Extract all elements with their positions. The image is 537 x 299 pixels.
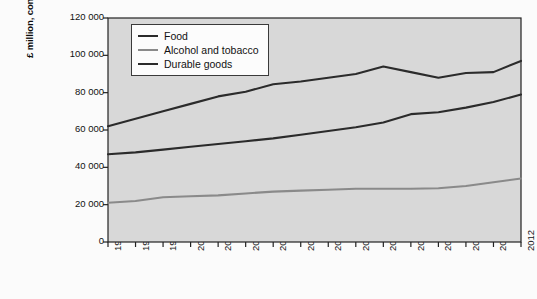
legend-swatch-icon: [138, 63, 158, 65]
legend-label: Durable goods: [164, 57, 232, 71]
legend-swatch-icon: [138, 35, 158, 37]
chart-legend: FoodAlcohol and tobaccoDurable goods: [131, 24, 269, 76]
line-chart: £ million, constant prices 020 00040 000…: [0, 0, 537, 299]
legend-swatch-icon: [138, 49, 158, 51]
legend-item: Alcohol and tobacco: [138, 43, 259, 57]
legend-label: Food: [164, 29, 188, 43]
legend-item: Durable goods: [138, 57, 259, 71]
legend-label: Alcohol and tobacco: [164, 43, 259, 57]
legend-item: Food: [138, 29, 259, 43]
